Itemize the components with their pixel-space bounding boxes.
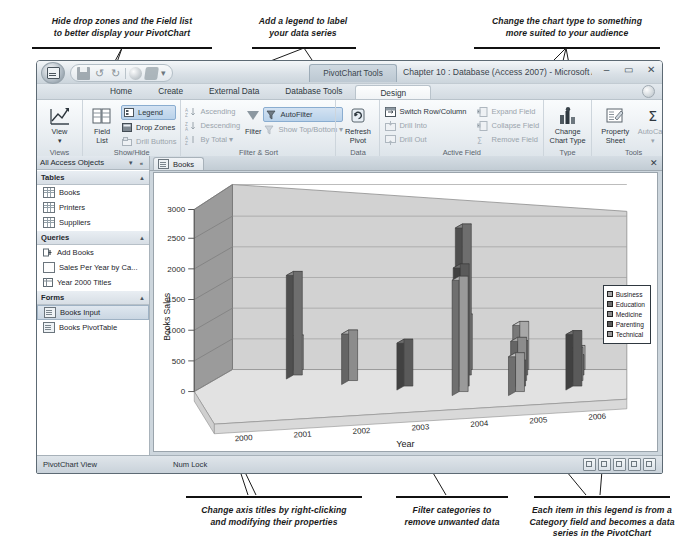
chart-bar-face [342,330,349,385]
drop-zones-label: Drop Zones [136,123,175,132]
sort-descending-button[interactable]: ZA Descending [185,119,240,132]
nav-group-forms[interactable]: Forms ▲ [37,290,149,305]
qat-separator [125,68,126,79]
change-chart-type-button[interactable]: Change Chart Type [548,104,587,145]
chevron-down-icon[interactable]: ▼ [125,160,137,166]
save-icon[interactable] [77,67,90,80]
legend-swatch [607,291,613,297]
sort-by-total-button[interactable]: AZ By Total ▾ [185,133,240,146]
field-list-label: Field List [87,128,117,145]
legend-item-medicine[interactable]: Medicine [607,309,645,319]
document-tab-books[interactable]: Books [153,157,204,170]
drill-buttons-button[interactable]: Drill Buttons [121,135,176,148]
refresh-pivot-button[interactable]: Refresh Pivot [340,104,375,145]
legend-item-technical[interactable]: Technical [607,329,645,339]
legend-item-business[interactable]: Business [607,289,645,299]
tab-design[interactable]: Design [355,85,431,99]
design-view-icon[interactable] [628,458,641,471]
legend-swatch [607,321,613,327]
legend-label: Medicine [616,311,642,318]
svg-text:0: 0 [181,388,186,397]
collapse-pane-icon[interactable]: « [137,160,146,166]
nav-item-label: Books Input [60,308,100,317]
tab-database-tools[interactable]: Database Tools [272,84,355,99]
legend-item-education[interactable]: Education [607,299,645,309]
nav-item-suppliers-table[interactable]: Suppliers [37,215,149,230]
datasheet-view-icon[interactable] [583,458,596,471]
autocalc-button[interactable]: Σ AutoCalc ▾ [635,104,664,145]
globe-icon[interactable] [129,67,142,80]
view-button[interactable]: View ▾ [41,104,78,145]
nav-group-tables[interactable]: Tables ▲ [37,170,149,185]
nav-item-add-books-query[interactable]: Add Books [37,245,149,260]
drill-into-button[interactable]: Drill Into [384,119,466,132]
nav-item-label: Books PivotTable [59,323,117,332]
property-sheet-button[interactable]: Property Sheet [596,104,634,145]
nav-item-printers-table[interactable]: Printers [37,200,149,215]
nav-item-label: Printers [59,203,85,212]
callout-top-mid: Add a legend to label your data series [228,16,378,39]
chevron-up-icon[interactable]: ▲ [139,295,145,301]
legend-toggle-button[interactable]: Legend [121,105,176,120]
expand-field-button[interactable]: Expand Field [477,105,540,118]
chart-bar-face [508,353,515,396]
svg-text:Σ: Σ [477,136,482,145]
ribbon-group-views: View ▾ Views [37,100,82,157]
legend-swatch [607,311,613,317]
chart-legend[interactable]: Business Education Medicine Parenting [603,285,651,344]
nav-group-queries[interactable]: Queries ▲ [37,230,149,245]
remove-field-button[interactable]: Σ Remove Field [477,133,540,146]
field-list-icon [87,105,117,126]
sort-by-total-icon: AZ [185,134,197,145]
chevron-up-icon[interactable]: ▲ [139,175,145,181]
office-button[interactable] [41,62,65,84]
help-icon[interactable] [642,85,655,98]
show-top-bottom-button[interactable]: Show Top/Bottom ▾ [263,123,343,136]
nav-item-year-2000-titles-query[interactable]: Year 2000 Titles [37,275,149,290]
tab-home[interactable]: Home [97,84,145,99]
nav-item-sales-per-year-query[interactable]: Sales Per Year by Ca... [37,260,149,275]
collapse-field-button[interactable]: Collapse Field [477,119,540,132]
callout-bottom-mid: Filter categories to remove unwanted dat… [388,505,516,528]
chart-bar-face [573,331,582,387]
close-document-icon[interactable]: ✕ [650,158,658,168]
ribbon-group-show-hide: Field List Legend Drop Zones [82,100,180,157]
maximize-button[interactable]: ▭ [622,63,635,77]
document-area: Books ✕ [150,156,662,455]
chevron-up-icon[interactable]: ▲ [139,235,145,241]
legend-item-parenting[interactable]: Parenting [607,319,645,329]
pivottable-view-icon[interactable] [598,458,611,471]
field-list-button[interactable]: Field List [87,104,117,145]
layout-view-icon[interactable] [643,458,656,471]
pivotchart-canvas[interactable]: 0 500 1000 1500 2000 2500 3000 Books Sal… [153,172,658,452]
nav-item-books-table[interactable]: Books [37,185,149,200]
pivotchart-view-icon[interactable] [613,458,626,471]
legend-label: Business [616,291,643,298]
redo-icon[interactable]: ↻ [109,67,122,80]
close-button[interactable]: ✕ [644,63,657,77]
drop-zones-button[interactable]: Drop Zones [121,121,176,134]
pivotchart-3d-bar-chart[interactable]: 0 500 1000 1500 2000 2500 3000 Books Sal… [154,173,657,451]
filter-button[interactable]: Filter [245,104,261,137]
access-application-window: ↺ ↻ ▾ PivotChart Tools Chapter 10 : Data… [36,60,663,474]
switch-row-column-button[interactable]: Switch Row/Column [384,105,466,118]
tab-create[interactable]: Create [145,84,196,99]
paint-icon[interactable] [144,67,159,80]
nav-item-books-pivottable-form[interactable]: Books PivotTable [37,320,149,335]
drill-out-button[interactable]: Drill Out [384,133,466,146]
legend-label: Education [616,301,645,308]
nav-item-label: Add Books [57,248,94,257]
autofilter-button[interactable]: AutoFilter [263,107,343,122]
navigation-pane-header[interactable]: All Access Objects ▼ « [37,156,149,170]
svg-text:500: 500 [172,357,186,366]
undo-icon[interactable]: ↺ [93,67,106,80]
customize-icon[interactable]: ▾ [161,68,166,78]
view-button-dropdown[interactable]: ▾ [41,137,78,146]
filter-label: Filter [245,128,261,137]
minimize-button[interactable]: – [600,63,613,77]
tab-external-data[interactable]: External Data [196,84,272,99]
chart-x-tick-label: 2000 [234,433,253,443]
nav-item-books-input-form[interactable]: Books Input [37,305,149,320]
sort-ascending-button[interactable]: AZ Ascending [185,105,240,118]
chart-bar-face [566,331,573,391]
